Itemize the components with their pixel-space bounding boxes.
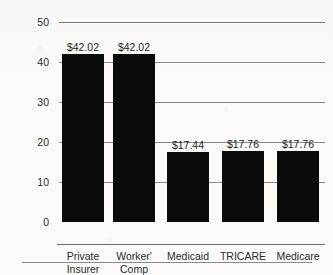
x-label-medicaid: Medicaid [157,250,219,263]
bar-medicare[interactable] [277,151,319,222]
x-label-line-1: Medicaid [157,250,219,263]
chart-title [63,0,263,3]
y-tick-30: 30 [9,97,49,108]
y-tick-10: 10 [9,177,49,188]
x-label-line-2: Comp [103,263,165,275]
bar-workers-comp[interactable] [113,54,155,222]
gridline-50 [59,22,325,23]
bar-private-insurer[interactable] [62,54,104,222]
x-label-tricare: TRICARE [212,250,274,263]
x-label-line-1: TRICARE [212,250,274,263]
footer-divider [22,262,312,263]
plot-area: 50 40 30 20 10 0 Dollars $42.02 $42.02 $… [59,22,325,222]
y-tick-40: 40 [9,57,49,68]
bar-label-workers-comp: $42.02 [103,41,165,53]
y-tick-50: 50 [9,17,49,28]
y-tick-20: 20 [9,137,49,148]
x-label-line-1: Worker' [103,250,165,263]
bar-label-tricare: $17.76 [212,138,274,150]
bar-label-medicaid: $17.44 [157,139,219,151]
bar-tricare[interactable] [222,151,264,222]
x-label-medicare: Medicare [267,250,329,263]
bar-label-medicare: $17.76 [267,138,329,150]
y-tick-0: 0 [9,217,49,228]
x-axis-line [57,244,325,245]
x-label-line-1: Medicare [267,250,329,263]
bar-medicaid[interactable] [167,152,209,222]
